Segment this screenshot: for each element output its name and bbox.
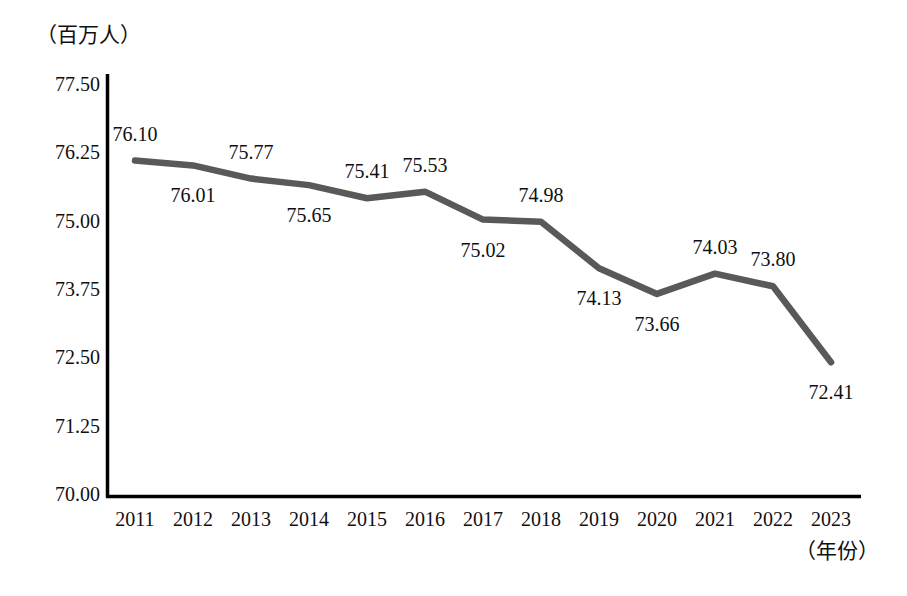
data-point-label: 73.80 <box>736 249 810 269</box>
data-point-label: 75.65 <box>272 205 346 225</box>
data-point-label: 75.77 <box>214 142 288 162</box>
chart-plot-area <box>0 0 907 596</box>
data-point-label: 72.41 <box>794 382 868 402</box>
y-tick-label: 73.75 <box>38 279 100 299</box>
axes-group <box>106 74 861 498</box>
x-tick-label: 2022 <box>743 509 803 529</box>
x-tick-label: 2019 <box>569 509 629 529</box>
x-tick-label: 2013 <box>221 509 281 529</box>
data-point-label: 76.10 <box>98 124 172 144</box>
y-tick-label: 70.00 <box>38 484 100 504</box>
y-tick-label: 76.25 <box>38 142 100 162</box>
data-point-label: 73.66 <box>620 314 694 334</box>
data-point-label: 74.98 <box>504 185 578 205</box>
data-series-line <box>135 161 831 363</box>
data-point-label: 74.13 <box>562 288 636 308</box>
data-point-label: 76.01 <box>156 185 230 205</box>
y-tick-label: 77.50 <box>38 74 100 94</box>
data-point-label: 75.02 <box>446 240 520 260</box>
y-tick-label: 71.25 <box>38 416 100 436</box>
x-tick-label: 2016 <box>395 509 455 529</box>
x-tick-label: 2018 <box>511 509 571 529</box>
data-point-label: 75.53 <box>388 155 462 175</box>
x-tick-label: 2015 <box>337 509 397 529</box>
x-tick-label: 2021 <box>685 509 745 529</box>
x-axis-title: （年份） <box>795 538 879 564</box>
y-tick-label: 72.50 <box>38 347 100 367</box>
x-tick-label: 2014 <box>279 509 339 529</box>
y-tick-label: 75.00 <box>38 211 100 231</box>
x-tick-label: 2011 <box>105 509 165 529</box>
x-tick-label: 2020 <box>627 509 687 529</box>
x-tick-label: 2017 <box>453 509 513 529</box>
chart-figure: （百万人） 77.5076.2575.0073.7572.5071.2570.0… <box>0 0 907 596</box>
x-tick-label: 2012 <box>163 509 223 529</box>
x-tick-label: 2023 <box>801 509 861 529</box>
